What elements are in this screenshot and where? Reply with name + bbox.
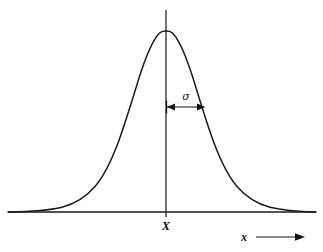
sigma-label: σ [182, 90, 190, 103]
chart-background [0, 0, 323, 252]
normal-distribution-chart: σ X x [0, 0, 323, 252]
x-axis-label: x [240, 231, 247, 243]
gaussian-figure-container: σ X x [0, 0, 323, 252]
mean-label: X [161, 219, 171, 233]
